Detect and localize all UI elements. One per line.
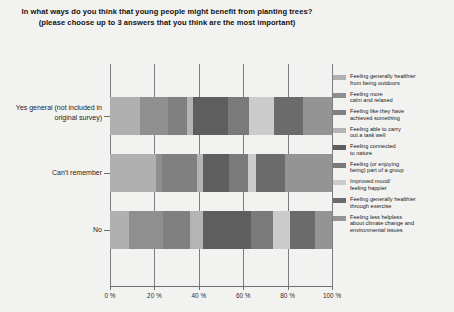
legend-item[interactable]: Feeling connected to nature bbox=[333, 143, 454, 156]
bar-segment[interactable] bbox=[273, 211, 290, 249]
chart-legend: Feeling generally healthier from being o… bbox=[333, 73, 454, 238]
legend-swatch-icon bbox=[333, 216, 346, 221]
x-axis-tick-label: 80 % bbox=[280, 292, 295, 299]
bar-row bbox=[110, 97, 332, 135]
bar-segment[interactable] bbox=[110, 154, 156, 192]
x-axis-tick-label: 60 % bbox=[236, 292, 251, 299]
y-axis-category-label: No bbox=[4, 225, 102, 235]
x-axis-tick bbox=[199, 286, 200, 290]
bar-segment[interactable] bbox=[140, 97, 168, 135]
bar-segment[interactable] bbox=[303, 97, 332, 135]
y-axis-category-label: Can't remember bbox=[4, 168, 102, 178]
legend-swatch-icon bbox=[333, 198, 346, 203]
legend-swatch-icon bbox=[333, 145, 346, 150]
bar-segment[interactable] bbox=[256, 154, 285, 192]
chart-title: In what ways do you think that young peo… bbox=[14, 6, 320, 28]
bar-segment[interactable] bbox=[251, 211, 273, 249]
bar-segment[interactable] bbox=[285, 154, 332, 192]
legend-swatch-icon bbox=[333, 75, 346, 80]
bar-segment[interactable] bbox=[129, 211, 163, 249]
legend-label: Feeling like they have achieved somethin… bbox=[350, 108, 404, 121]
bar-row bbox=[110, 211, 332, 249]
y-axis-tick bbox=[104, 116, 110, 117]
legend-label: Feeling more calm and relaxed bbox=[350, 91, 393, 104]
bar-segment[interactable] bbox=[187, 97, 194, 135]
bar-segment[interactable] bbox=[110, 211, 129, 249]
legend-item[interactable]: Feeling generally healthier from being o… bbox=[333, 73, 454, 86]
bar-row bbox=[110, 154, 332, 192]
legend-label: Feeling generally healthier from being o… bbox=[350, 73, 416, 86]
legend-item[interactable]: Feeling more calm and relaxed bbox=[333, 91, 454, 104]
bar-segment[interactable] bbox=[203, 211, 251, 249]
legend-swatch-icon bbox=[333, 180, 346, 185]
legend-label: Feeling able to carry out a task well bbox=[350, 126, 401, 139]
legend-swatch-icon bbox=[333, 110, 346, 115]
legend-item[interactable]: Feeling less helpless about climate chan… bbox=[333, 214, 454, 234]
bar-segment[interactable] bbox=[156, 154, 163, 192]
x-axis-tick bbox=[243, 286, 244, 290]
bar-segment[interactable] bbox=[248, 154, 257, 192]
bar-segment[interactable] bbox=[229, 154, 248, 192]
x-axis-tick bbox=[288, 286, 289, 290]
legend-label: Feeling (or enjoying being) part of a gr… bbox=[350, 161, 404, 174]
bar-segment[interactable] bbox=[249, 97, 275, 135]
y-axis-category-label: Yes general (not included in original su… bbox=[4, 103, 102, 122]
x-axis-tick-label: 20 % bbox=[147, 292, 162, 299]
legend-item[interactable]: Feeling generally healthier through exer… bbox=[333, 196, 454, 209]
bar-segment[interactable] bbox=[168, 97, 187, 135]
x-axis-line bbox=[110, 286, 332, 287]
legend-label: Feeling less helpless about climate chan… bbox=[350, 214, 414, 234]
legend-item[interactable]: Feeling (or enjoying being) part of a gr… bbox=[333, 161, 454, 174]
bar-segment[interactable] bbox=[193, 97, 227, 135]
y-axis-tick bbox=[104, 173, 110, 174]
bar-segment[interactable] bbox=[162, 154, 196, 192]
x-axis-tick bbox=[332, 286, 333, 290]
x-axis-tick bbox=[154, 286, 155, 290]
bar-segment[interactable] bbox=[274, 97, 303, 135]
legend-label: Improved mood/ feeling happier bbox=[350, 178, 390, 191]
bar-segment[interactable] bbox=[197, 154, 204, 192]
bar-segment[interactable] bbox=[290, 211, 316, 249]
legend-label: Feeling generally healthier through exer… bbox=[350, 196, 416, 209]
bar-segment[interactable] bbox=[190, 211, 203, 249]
legend-item[interactable]: Improved mood/ feeling happier bbox=[333, 178, 454, 191]
x-axis-tick-label: 0 % bbox=[104, 292, 115, 299]
legend-label: Feeling connected to nature bbox=[350, 143, 396, 156]
bar-segment[interactable] bbox=[203, 154, 229, 192]
bar-segment[interactable] bbox=[163, 211, 190, 249]
x-axis-tick bbox=[110, 286, 111, 290]
bar-segment[interactable] bbox=[228, 97, 249, 135]
legend-swatch-icon bbox=[333, 128, 346, 133]
bar-segment[interactable] bbox=[315, 211, 332, 249]
bar-segment[interactable] bbox=[110, 97, 140, 135]
legend-swatch-icon bbox=[333, 163, 346, 168]
legend-item[interactable]: Feeling able to carry out a task well bbox=[333, 126, 454, 139]
x-axis-tick-label: 100 % bbox=[323, 292, 341, 299]
legend-item[interactable]: Feeling like they have achieved somethin… bbox=[333, 108, 454, 121]
legend-swatch-icon bbox=[333, 93, 346, 98]
y-axis-tick bbox=[104, 230, 110, 231]
chart-root: In what ways do you think that young peo… bbox=[0, 0, 454, 312]
x-axis-tick-label: 40 % bbox=[192, 292, 207, 299]
